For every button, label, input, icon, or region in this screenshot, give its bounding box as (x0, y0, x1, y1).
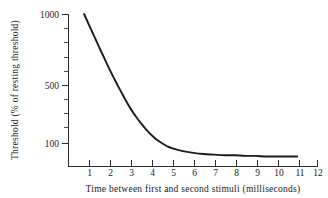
x-tick-label-11: 11 (295, 168, 304, 178)
x-tick-label-1: 1 (87, 168, 92, 178)
x-tick-label-9: 9 (255, 168, 260, 178)
x-tick-label-12: 12 (313, 168, 323, 178)
x-tick-label-7: 7 (213, 168, 218, 178)
x-axis-title: Time between first and second stimuli (m… (86, 184, 301, 195)
x-tick-label-3: 3 (129, 168, 134, 178)
x-tick-label-8: 8 (234, 168, 239, 178)
y-axis-title: Threshold (% of resting threshold) (10, 20, 21, 160)
x-tick-label-10: 10 (274, 168, 284, 178)
chart-canvas: 1000 500 100 1 2 3 4 5 6 7 8 9 (0, 0, 328, 198)
x-tick-label-2: 2 (108, 168, 113, 178)
line-chart-figure: 1000 500 100 1 2 3 4 5 6 7 8 9 (0, 0, 328, 198)
x-tick-label-6: 6 (192, 168, 197, 178)
x-tick-label-5: 5 (171, 168, 176, 178)
threshold-decay-curve (84, 14, 297, 157)
y-tick-label-1000: 1000 (40, 10, 59, 20)
y-tick-label-100: 100 (45, 139, 60, 149)
x-tick-label-4: 4 (150, 168, 155, 178)
figure-page: 1000 500 100 1 2 3 4 5 6 7 8 9 (0, 0, 328, 198)
y-tick-label-500: 500 (45, 81, 60, 91)
